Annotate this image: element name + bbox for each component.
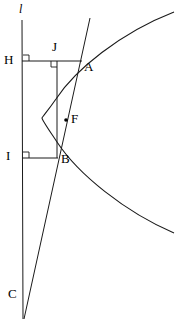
label-point-b: B [61, 152, 70, 165]
label-point-h: H [4, 53, 13, 66]
right-angle-marker-j [51, 61, 57, 67]
right-angle-marker-h [23, 55, 29, 61]
geometry-canvas [0, 0, 189, 319]
focus-point-dot [64, 118, 68, 122]
label-point-f: F [71, 112, 78, 125]
label-point-a: A [84, 60, 93, 73]
directrix-line [22, 20, 23, 319]
geometry-figure: l H J A F B I C [0, 0, 189, 319]
parabola-curve [42, 12, 174, 233]
label-point-c: C [8, 287, 17, 300]
label-point-j: J [52, 40, 57, 53]
right-angle-marker-i [23, 152, 29, 158]
label-directrix-l: l [19, 3, 22, 15]
label-point-i: I [6, 149, 10, 162]
